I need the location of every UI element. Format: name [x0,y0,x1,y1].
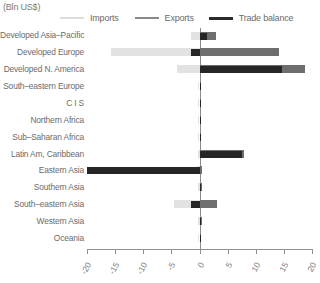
category-label: Northern Africa [0,116,84,125]
category-label: Eastern Asia [0,166,84,175]
x-axis-tick-label: -20 [64,261,94,283]
legend-label-trade-balance: Trade balance [239,14,294,23]
x-axis-tick-label: -5 [148,261,178,283]
bar-imports [177,65,200,73]
chart-row [87,79,312,96]
x-axis-tick [115,249,116,254]
chart-row [87,163,312,180]
chart-unit-title: (Bln US$) [3,2,40,12]
x-axis-tick [171,249,172,254]
category-label: Developed Asia–Pacific [0,31,84,40]
bar-trade-balance [200,184,201,191]
legend-label-exports: Exports [165,14,194,23]
chart-row [87,146,312,163]
x-axis-tick-label: 15 [261,261,291,283]
x-axis-tick-label: 20 [289,261,319,283]
legend-swatch-imports [60,17,84,19]
legend-item-trade-balance: Trade balance [209,14,294,23]
legend-label-imports: Imports [90,14,119,23]
bar-trade-balance [200,83,201,90]
category-axis-labels: Developed Asia–PacificDeveloped EuropeDe… [0,28,84,249]
bar-trade-balance [191,201,199,208]
bar-trade-balance [200,33,207,40]
x-axis-tick [284,249,285,254]
x-axis-tick-label: -15 [92,261,122,283]
chart-row [87,214,312,231]
category-label: Latin Am, Caribbean [0,150,84,159]
bar-trade-balance [200,66,283,73]
chart-row [87,129,312,146]
bar-imports [191,32,200,40]
legend-swatch-trade-balance [209,17,233,20]
legend-item-exports: Exports [135,14,194,23]
category-label: Developed Europe [0,48,84,57]
legend-swatch-exports [135,17,159,19]
plot-area [87,28,312,249]
category-label: Southern Asia [0,183,84,192]
bar-trade-balance [200,100,201,107]
x-axis-tick [200,249,201,254]
bar-exports [200,200,217,208]
x-axis-tick [256,249,257,254]
x-axis-tick-label: 5 [204,261,234,283]
bar-imports [111,48,200,56]
chart-row [87,230,312,247]
chart-row [87,28,312,45]
chart-row [87,95,312,112]
x-axis-tick [143,249,144,254]
chart-legend: Imports Exports Trade balance [60,11,318,25]
trade-balance-bar-chart: (Bln US$) Imports Exports Trade balance … [0,0,320,283]
bar-exports [200,166,202,174]
x-axis-tick [312,249,313,254]
category-label: Developed N. America [0,65,84,74]
bar-trade-balance [200,134,201,141]
bar-trade-balance [200,117,201,124]
category-label: South–eastern Europe [0,82,84,91]
x-axis-tick-label: 10 [232,261,262,283]
chart-row [87,45,312,62]
chart-row [87,62,312,79]
bar-trade-balance [87,167,200,174]
bar-trade-balance [200,151,243,158]
category-label: Oceania [0,234,84,243]
x-axis-tick [228,249,229,254]
x-axis-tick-label: -10 [120,261,150,283]
x-axis-tick [87,249,88,254]
bar-exports [200,48,280,56]
bar-trade-balance [200,235,201,242]
x-axis-tick-label: 0 [176,261,206,283]
category-label: C I S [0,99,84,108]
chart-row [87,197,312,214]
category-label: Western Asia [0,217,84,226]
legend-item-imports: Imports [60,14,119,23]
chart-row [87,180,312,197]
bar-trade-balance [200,218,201,225]
bar-trade-balance [191,49,200,56]
category-label: Sub–Saharan Africa [0,133,84,142]
category-label: South–eastern Asia [0,200,84,209]
chart-row [87,112,312,129]
